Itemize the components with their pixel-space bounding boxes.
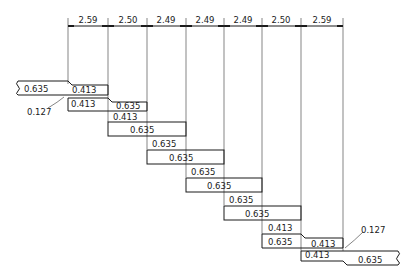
row-8-right-label: 0.635 <box>358 255 382 265</box>
dim-5: 2.49 <box>234 15 253 25</box>
row-8-plate: 0.413 0.635 <box>301 250 400 265</box>
row-7-left-label: 0.635 <box>268 237 292 247</box>
row-6: 0.635 0.635 <box>224 195 301 220</box>
row-6-box-label: 0.635 <box>245 209 269 219</box>
dim-3: 2.49 <box>157 15 176 25</box>
row-8-left-label: 0.413 <box>305 250 329 260</box>
row-4-gap-label: 0.635 <box>152 139 176 149</box>
row-1-left-label: 0.635 <box>24 84 48 94</box>
row-3-box-label: 0.635 <box>130 125 154 135</box>
row-3-gap-label: 0.413 <box>113 112 137 122</box>
dim-6: 2.50 <box>272 15 291 25</box>
row-4: 0.635 0.635 <box>147 139 224 164</box>
diagram-canvas: 2.59 2.50 2.49 2.49 2.49 2.50 2.59 0.635… <box>0 0 415 280</box>
extension-lines <box>68 18 343 251</box>
row-4-box-label: 0.635 <box>169 153 193 163</box>
row-2-plate: 0.413 0.635 <box>68 98 147 111</box>
row-2-left-label: 0.413 <box>71 99 95 109</box>
row-5-gap-label: 0.635 <box>191 167 215 177</box>
row-7-gap-label: 0.413 <box>268 223 292 233</box>
dim-1: 2.59 <box>79 15 98 25</box>
row-7-right-label: 0.413 <box>311 239 335 249</box>
dim-7: 2.59 <box>313 15 332 25</box>
row-6-gap-label: 0.635 <box>229 195 253 205</box>
dim-4: 2.49 <box>196 15 215 25</box>
row-2-right-label: 0.635 <box>116 101 140 111</box>
callout-top-left-label: 0.127 <box>27 107 51 117</box>
dim-2: 2.50 <box>119 15 138 25</box>
callout-bottom-right: 0.127 <box>345 225 385 248</box>
callout-top-left: 0.127 <box>27 97 64 117</box>
row-7-plate: 0.413 0.635 0.413 <box>262 223 343 249</box>
row-1-right-label: 0.413 <box>72 85 96 95</box>
callout-bottom-right-label: 0.127 <box>361 225 385 235</box>
top-dimension-labels: 2.59 2.50 2.49 2.49 2.49 2.50 2.59 <box>79 15 332 25</box>
row-1-plate: 0.635 0.413 <box>17 81 109 95</box>
row-5-box-label: 0.635 <box>207 181 231 191</box>
